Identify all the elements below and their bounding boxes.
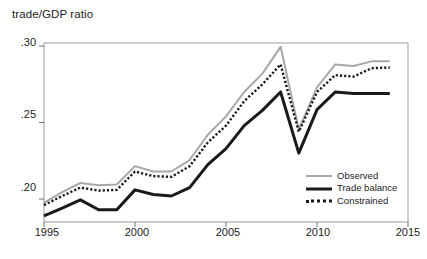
- chart-figure: trade/GDP ratio .30 .25 .20 1995 2000 20…: [0, 0, 427, 259]
- legend-swatch-observed-icon: [306, 171, 332, 181]
- legend-swatch-constrained-icon: [306, 196, 332, 206]
- legend-item-observed: Observed: [306, 170, 397, 182]
- legend-label-observed: Observed: [337, 170, 378, 182]
- legend-label-trade-balance: Trade balance: [337, 182, 397, 194]
- legend-swatch-trade-balance-icon: [306, 184, 332, 194]
- legend-label-constrained: Constrained: [337, 195, 388, 207]
- legend-item-constrained: Constrained: [306, 195, 397, 207]
- legend-item-trade-balance: Trade balance: [306, 182, 397, 194]
- chart-legend: Observed Trade balance Constrained: [306, 170, 397, 207]
